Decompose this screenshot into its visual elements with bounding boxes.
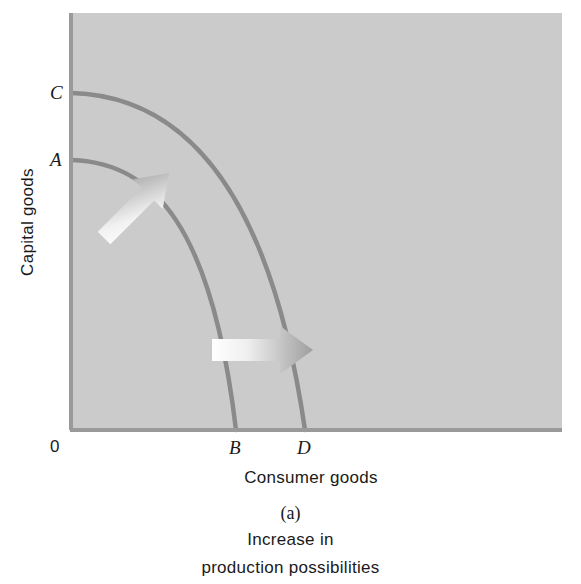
point-label-b: B <box>229 437 241 459</box>
figure-caption: (a) Increase in production possibilities <box>0 500 581 582</box>
y-axis-title: Capital goods <box>18 132 38 312</box>
point-label-d: D <box>297 437 311 459</box>
point-label-c: C <box>50 82 63 104</box>
origin-label: 0 <box>50 437 59 457</box>
new-ppf-curve <box>72 93 305 430</box>
ppf-figure: Capital goods Consumer goods C A B D 0 (… <box>0 0 581 584</box>
caption-line-1: Increase in <box>0 526 581 554</box>
ppf-chart-svg <box>0 0 581 584</box>
caption-line-2: production possibilities <box>0 554 581 582</box>
x-axis-title: Consumer goods <box>181 468 441 488</box>
point-label-a: A <box>50 149 62 171</box>
outward-shift-arrow-upper-icon <box>89 158 184 253</box>
panel-label: (a) <box>0 500 581 526</box>
